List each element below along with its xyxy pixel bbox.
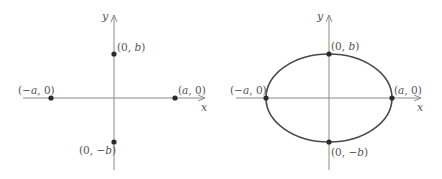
y-axis-label: y bbox=[316, 10, 324, 23]
right-panel: x y (−a, 0) (a, 0) (0, b) (0, −b) bbox=[230, 10, 424, 170]
label-pos-b: (0, b) bbox=[117, 41, 145, 53]
label-neg-b: (0, −b) bbox=[79, 144, 116, 156]
point-pos-b bbox=[326, 51, 331, 56]
point-neg-a bbox=[263, 95, 268, 100]
point-pos-b bbox=[111, 51, 116, 56]
label-neg-a: (−a, 0) bbox=[230, 84, 267, 96]
point-neg-b bbox=[326, 139, 331, 144]
point-neg-a bbox=[48, 95, 53, 100]
label-pos-b: (0, b) bbox=[331, 40, 359, 52]
label-neg-a: (−a, 0) bbox=[18, 84, 55, 96]
x-axis-label: x bbox=[417, 101, 424, 114]
label-pos-a: (a, 0) bbox=[178, 84, 206, 96]
point-pos-a bbox=[389, 95, 394, 100]
label-neg-b: (0, −b) bbox=[331, 146, 368, 158]
y-axis-label: y bbox=[101, 10, 109, 23]
x-axis-label: x bbox=[201, 101, 208, 114]
ellipse-diagram: x y (−a, 0) (a, 0) (0, b) (0, −b) x y (−… bbox=[0, 0, 442, 179]
label-pos-a: (a, 0) bbox=[394, 84, 422, 96]
point-pos-a bbox=[172, 95, 177, 100]
left-panel: x y (−a, 0) (a, 0) (0, b) (0, −b) bbox=[18, 10, 208, 170]
